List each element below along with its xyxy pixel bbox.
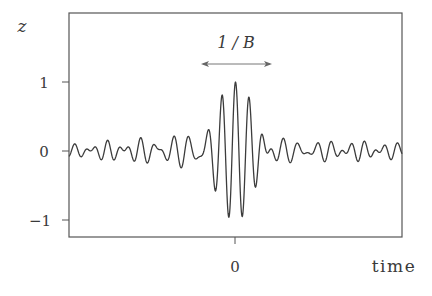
x-axis-label: time [372,256,416,276]
chart-figure: 1 0 −1 0 z time 1 / B [0,0,432,296]
y-tick-label-0: 0 [39,143,49,161]
bandwidth-annotation-label: 1 / B [217,33,255,52]
x-tick-label-0: 0 [230,258,240,276]
bandwidth-double-arrow-icon [201,61,272,67]
y-tick-label-neg1: −1 [29,212,51,230]
signal-curve [69,82,402,217]
y-tick-label-1: 1 [39,74,49,92]
y-axis-label: z [17,16,28,36]
